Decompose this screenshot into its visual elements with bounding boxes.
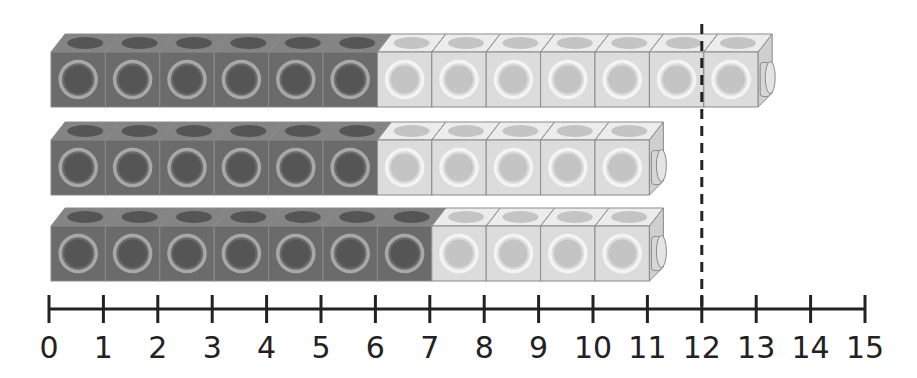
tick-label: 6 [366,330,385,365]
train-2 [51,122,666,195]
tick-label: 1 [94,330,113,365]
tick-label: 12 [683,330,721,365]
tick-label: 10 [574,330,612,365]
train-3 [51,208,666,281]
tick-label: 9 [529,330,548,365]
tick-label: 4 [257,330,276,365]
tick-label: 0 [39,330,58,365]
tick-label: 3 [203,330,222,365]
cube-number-line-diagram: 0123456789101112131415 [0,0,917,378]
tick-label: 15 [846,330,884,365]
tick-label: 2 [148,330,167,365]
tick-label: 5 [311,330,330,365]
cube-trains [51,34,775,281]
train-1 [51,34,775,107]
tick-label: 13 [737,330,775,365]
tick-label: 8 [475,330,494,365]
number-line: 0123456789101112131415 [39,295,884,365]
tick-label: 14 [792,330,830,365]
tick-label: 7 [420,330,439,365]
tick-label: 11 [628,330,666,365]
